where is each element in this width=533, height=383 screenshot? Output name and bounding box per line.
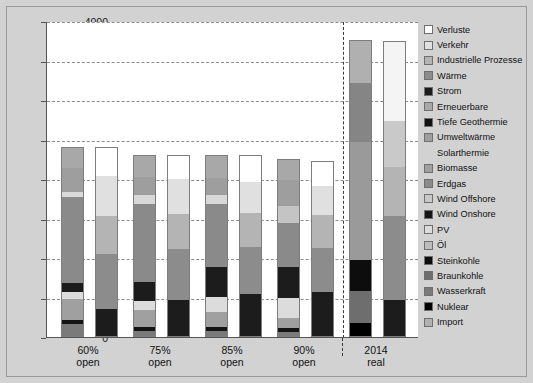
legend-label: Wasserkraft (437, 286, 486, 296)
bar-segment-erneuerbare (61, 147, 84, 168)
bar-segment-solarthermie (205, 195, 228, 204)
chart-legend: VerlusteVerkehrIndustrielle ProzesseWärm… (424, 22, 530, 330)
bar-segment-import (349, 40, 372, 83)
legend-item-industrielle-prozesse[interactable]: Industrielle Prozesse (424, 53, 530, 68)
bar-segment-strom (383, 300, 406, 337)
x-label-line1: 60% (53, 344, 123, 356)
legend-label: Öl (437, 240, 446, 250)
legend-swatch-icon (424, 148, 433, 157)
bar-segment-strom (239, 294, 262, 337)
legend-item-braunkohle[interactable]: Braunkohle (424, 268, 530, 283)
bar-segment-verluste (311, 161, 334, 186)
bar-segment-wasserkraft (277, 332, 300, 337)
legend-swatch-icon (424, 164, 433, 173)
legend-swatch-icon (424, 287, 433, 296)
bar-segment-steinkohle (349, 260, 372, 291)
bar-segment-steinkohle (277, 267, 300, 298)
bar-segment-verluste (95, 147, 118, 175)
legend-item-wind-offshore[interactable]: Wind Offshore (424, 191, 530, 206)
bar-segment-verluste (167, 155, 190, 179)
bar-segment-biomasse (61, 299, 84, 320)
bar-segment-verkehr (311, 186, 334, 214)
legend-item-strom[interactable]: Strom (424, 84, 530, 99)
x-label-line1: 2014 (341, 344, 411, 356)
bar-segment-biomasse (277, 318, 300, 328)
legend-label: Tiefe Geothermie (437, 117, 508, 127)
legend-label: Erneuerbare (437, 102, 488, 112)
legend-swatch-icon (424, 87, 433, 96)
legend-label: Erdgas (437, 179, 466, 189)
chart-figure: 05001000150020002500300035004000 TWh/Jah… (0, 0, 533, 383)
legend-item-tiefe-geothermie[interactable]: Tiefe Geothermie (424, 114, 530, 129)
bar-segment-verkehr (239, 182, 262, 213)
bar-segment-erneuerbare (277, 159, 300, 180)
bar-segment-pv (205, 297, 228, 312)
bar-segment-umweltwarme (61, 168, 84, 192)
legend-item-warme[interactable]: Wärme (424, 68, 530, 83)
bar-segment-pv (133, 301, 156, 310)
legend-item-pv[interactable]: PV (424, 222, 530, 237)
bar-segment-nuklear (349, 323, 372, 337)
x-axis-tick-label: 75%open (125, 344, 195, 368)
bar-segment-erdgas (205, 204, 228, 266)
legend-label: Braunkohle (437, 271, 483, 281)
legend-swatch-icon (424, 302, 433, 311)
bar-segment-strom (311, 292, 334, 337)
bar-segment-pv (277, 298, 300, 318)
plot-area (46, 22, 418, 338)
legend-label: Verluste (437, 25, 470, 35)
legend-item-import[interactable]: Import (424, 314, 530, 329)
x-label-line2: open (197, 356, 267, 368)
legend-label: PV (437, 225, 449, 235)
legend-item-solarthermie[interactable]: Solarthermie (424, 145, 530, 160)
legend-item-wind-onshore[interactable]: Wind Onshore (424, 207, 530, 222)
legend-item-verluste[interactable]: Verluste (424, 22, 530, 37)
bar-segment-erdgas (61, 197, 84, 283)
legend-label: Biomasse (437, 163, 477, 173)
legend-item-steinkohle[interactable]: Steinkohle (424, 253, 530, 268)
bar-segment-verkehr (95, 176, 118, 216)
bar-segment-erdgas (133, 204, 156, 281)
legend-swatch-icon (424, 271, 433, 280)
legend-label: Wind Offshore (437, 194, 496, 204)
bar-segment-industrielle-prozesse (311, 215, 334, 248)
legend-item-wasserkraft[interactable]: Wasserkraft (424, 284, 530, 299)
legend-item-erdgas[interactable]: Erdgas (424, 176, 530, 191)
bar-segment-wasserkraft (205, 331, 228, 337)
bar-segment-warme (383, 216, 406, 300)
bar-segment-biomasse (133, 310, 156, 327)
bar-segment-wasserkraft (133, 331, 156, 337)
x-axis-tick-label: 60%open (53, 344, 123, 368)
bar-60open-demand (95, 147, 118, 337)
bar-segment-verkehr (383, 121, 406, 167)
legend-item-nuklear[interactable]: Nuklear (424, 299, 530, 314)
legend-swatch-icon (424, 25, 433, 34)
x-label-line2: open (53, 356, 123, 368)
legend-swatch-icon (424, 241, 433, 250)
legend-item-biomasse[interactable]: Biomasse (424, 161, 530, 176)
legend-label: Strom (437, 86, 462, 96)
legend-label: Nuklear (437, 302, 469, 312)
bar-segment-industrielle-prozesse (383, 167, 406, 216)
bar-segment-industrielle-prozesse (167, 214, 190, 249)
divider-line (343, 22, 344, 337)
x-label-line1: 90% (269, 344, 339, 356)
y-axis-tick (41, 338, 46, 339)
legend-swatch-icon (424, 71, 433, 80)
bar-75open-supply (133, 155, 156, 337)
legend-swatch-icon (424, 56, 433, 65)
bar-segment-strom (167, 300, 190, 337)
legend-item-verkehr[interactable]: Verkehr (424, 37, 530, 52)
x-label-line1: 85% (197, 344, 267, 356)
x-label-line1: 75% (125, 344, 195, 356)
legend-item-ol[interactable]: Öl (424, 237, 530, 252)
bar-segment-steinkohle (61, 283, 84, 292)
legend-item-umweltwarme[interactable]: Umweltwärme (424, 130, 530, 145)
bar-segment-erneuerbare (133, 155, 156, 176)
legend-swatch-icon (424, 318, 433, 327)
legend-label: Steinkohle (437, 256, 480, 266)
legend-swatch-icon (424, 133, 433, 142)
legend-swatch-icon (424, 194, 433, 203)
x-label-line2: open (125, 356, 195, 368)
legend-item-erneuerbare[interactable]: Erneuerbare (424, 99, 530, 114)
